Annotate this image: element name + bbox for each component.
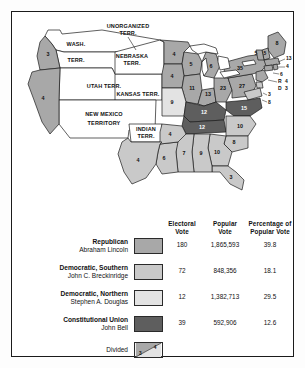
new-jersey-rep-prefix: R xyxy=(278,78,282,84)
utah-territory-label: UTAH TERR. xyxy=(87,83,122,89)
divided-right-value: 4 xyxy=(154,345,157,350)
legend-swatch-republican xyxy=(134,238,163,254)
legend-electoral-republican: 180 xyxy=(163,241,201,248)
legend-popular-democratic-southern: 848,356 xyxy=(204,267,246,274)
washington-territory-label-1: WASH. xyxy=(67,41,86,47)
party-name: Democratic, Northern xyxy=(12,290,128,298)
new-jersey-rep-votes: 4 xyxy=(285,78,288,84)
north-carolina-votes: 10 xyxy=(237,123,243,129)
georgia-votes: 10 xyxy=(214,149,220,155)
percent-head-line2: Popular Vote xyxy=(250,228,290,235)
texas-shape xyxy=(118,138,162,184)
us-map: .st{stroke:#1b1b1b;stroke-width:.7;strok… xyxy=(12,12,295,207)
unorganized-territory-label-1: UNORGANIZED xyxy=(107,23,150,29)
vermont-votes: 5 xyxy=(255,50,258,56)
legend-label-constitutional-union: Constitutional Union John Bell xyxy=(12,316,128,333)
florida-votes: 3 xyxy=(230,174,233,180)
lake-huron-shape xyxy=(218,56,230,70)
delaware-shape xyxy=(256,82,263,88)
divided-label: Divided xyxy=(12,346,128,354)
legend-swatch-democratic-southern xyxy=(134,264,163,280)
louisiana-votes: 6 xyxy=(163,155,166,161)
massachusetts-votes: 13 xyxy=(286,55,292,61)
connecticut-votes: 6 xyxy=(280,71,283,77)
election-map-figure: .st{stroke:#1b1b1b;stroke-width:.7;strok… xyxy=(0,0,305,368)
iowa-votes: 4 xyxy=(171,73,174,79)
legend-swatch-constitutional-union xyxy=(134,316,163,332)
legend-popular-constitutional-union: 592,906 xyxy=(204,319,246,326)
party-name: Constitutional Union xyxy=(12,316,128,324)
column-header-percent: Percentage of Popular Vote xyxy=(244,220,296,235)
divided-left-value: 3 xyxy=(139,351,142,356)
legend-row-republican: Republican Abraham Lincoln 180 1,865,593… xyxy=(12,238,295,263)
virginia-votes: 15 xyxy=(241,105,247,111)
connecticut-shape xyxy=(264,65,273,71)
legend-percent-republican: 39.8 xyxy=(246,241,294,248)
new-jersey-leader-line xyxy=(268,80,277,82)
candidate-name: Stephen A. Douglas xyxy=(12,298,128,306)
legend-popular-republican: 1,865,593 xyxy=(204,241,246,248)
legend-label-divided: Divided xyxy=(12,346,128,354)
legend-popular-democratic-northern: 1,382,713 xyxy=(204,293,246,300)
electoral-head-line2: Vote xyxy=(175,228,189,235)
kentucky-votes: 12 xyxy=(201,109,207,115)
connecticut-leader-line xyxy=(273,73,279,74)
michigan-votes: 6 xyxy=(210,63,213,69)
legend-electoral-democratic-southern: 72 xyxy=(163,267,201,274)
nebraska-territory-label-2: TERR. xyxy=(123,60,141,66)
washington-territory-label-2: TERR. xyxy=(67,57,85,63)
florida-shape xyxy=(212,166,244,190)
us-map-svg: .st{stroke:#1b1b1b;stroke-width:.7;strok… xyxy=(12,12,295,207)
rhode-island-votes: 4 xyxy=(286,63,289,69)
divided-swatch-svg: 3 4 xyxy=(135,343,162,357)
legend-label-democratic-southern: Democratic, Southern John C. Breckinridg… xyxy=(12,264,128,281)
missouri-votes: 9 xyxy=(171,99,174,105)
pennsylvania-votes: 27 xyxy=(239,83,245,89)
candidate-name: John C. Breckinridge xyxy=(12,272,128,280)
column-header-popular: Popular Vote xyxy=(206,220,244,235)
legend-row-constitutional-union: Constitutional Union John Bell 39 592,90… xyxy=(12,316,295,341)
new-mexico-territory-label-2: TERRITORY xyxy=(88,120,121,126)
figure-frame: .st{stroke:#1b1b1b;stroke-width:.7;strok… xyxy=(11,11,294,357)
rhode-island-shape xyxy=(273,64,278,70)
party-name: Democratic, Southern xyxy=(12,264,128,272)
new-mexico-territory-label-1: NEW MEXICO xyxy=(85,111,123,117)
legend-row-democratic-southern: Democratic, Southern John C. Breckinridg… xyxy=(12,264,295,289)
legend-percent-democratic-southern: 18.1 xyxy=(246,267,294,274)
popular-head-line2: Vote xyxy=(218,228,232,235)
legend-swatch-divided: 3 4 xyxy=(134,342,163,358)
maryland-leader-line xyxy=(262,100,267,102)
maine-votes: 8 xyxy=(276,40,279,46)
lake-superior-shape xyxy=(190,44,218,54)
unorganized-territory-label-2: TERR. xyxy=(119,30,137,36)
candidate-name: John Bell xyxy=(12,324,128,332)
ohio-votes: 23 xyxy=(220,85,226,91)
legend-percent-democratic-northern: 29.5 xyxy=(246,293,294,300)
popular-head-line1: Popular xyxy=(213,220,237,227)
indian-territory-label-2: TERR. xyxy=(137,133,155,139)
new-jersey-dem-prefix: D xyxy=(278,85,282,91)
party-name: Republican xyxy=(12,238,128,246)
new-york-votes: 35 xyxy=(237,65,243,71)
mississippi-votes: 7 xyxy=(183,150,186,156)
new-jersey-shape xyxy=(256,70,268,82)
legend-row-democratic-northern: Democratic, Northern Stephen A. Douglas … xyxy=(12,290,295,315)
new-jersey-dem-votes: 3 xyxy=(285,85,288,91)
california-shape xyxy=(28,68,60,134)
nebraska-territory-label-1: NEBRASKA xyxy=(116,53,148,59)
electoral-head-line1: Electoral xyxy=(168,220,196,227)
legend-electoral-democratic-northern: 12 xyxy=(163,293,201,300)
column-header-electoral: Electoral Vote xyxy=(163,220,201,235)
delaware-leader-line xyxy=(263,93,267,95)
indiana-votes: 13 xyxy=(205,91,211,97)
texas-votes: 4 xyxy=(137,157,140,163)
minnesota-votes: 4 xyxy=(173,51,176,57)
candidate-name: Abraham Lincoln xyxy=(12,246,128,254)
indian-territory-label-1: INDIAN xyxy=(136,126,156,132)
new-hampshire-votes: 5 xyxy=(264,50,267,56)
legend-row-divided: Divided 3 4 xyxy=(12,342,295,367)
legend-electoral-constitutional-union: 39 xyxy=(163,319,201,326)
legend-label-democratic-northern: Democratic, Northern Stephen A. Douglas xyxy=(12,290,128,307)
california-votes: 4 xyxy=(42,95,45,101)
wisconsin-votes: 5 xyxy=(190,61,193,67)
